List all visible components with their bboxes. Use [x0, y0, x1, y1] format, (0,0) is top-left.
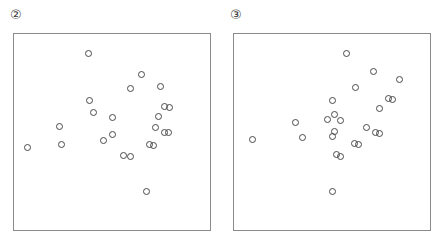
scatter-point	[157, 83, 164, 90]
plot-area-3	[234, 34, 430, 230]
scatter-point	[56, 123, 63, 130]
scatter-point	[329, 97, 336, 104]
scatter-point	[329, 133, 336, 140]
scatter-point	[152, 124, 159, 131]
scatter-point	[100, 137, 107, 144]
scatter-point	[376, 105, 383, 112]
panel-label-circled-three: ③	[230, 8, 242, 21]
scatter-point	[138, 71, 145, 78]
scatter-point	[249, 136, 256, 143]
scatter-point	[337, 153, 344, 160]
scatter-point	[24, 144, 31, 151]
figure-canvas: ② ③	[0, 0, 438, 248]
scatter-point	[376, 130, 383, 137]
scatter-panel-2: ②	[0, 0, 219, 248]
scatter-point	[109, 114, 116, 121]
scatter-point	[150, 142, 157, 149]
panel-label-circled-two: ②	[10, 8, 22, 21]
scatter-point	[165, 129, 172, 136]
scatter-point	[324, 116, 331, 123]
scatter-point	[127, 153, 134, 160]
scatter-point	[120, 152, 127, 159]
scatter-point	[329, 188, 336, 195]
scatter-point	[109, 131, 116, 138]
scatter-point	[90, 109, 97, 116]
scatter-point	[343, 50, 350, 57]
scatter-point	[337, 117, 344, 124]
scatter-point	[292, 119, 299, 126]
scatter-point	[85, 50, 92, 57]
scatter-point	[58, 141, 65, 148]
scatter-point	[355, 141, 362, 148]
scatter-point	[352, 84, 359, 91]
scatter-point	[331, 111, 338, 118]
scatter-point	[155, 113, 162, 120]
scatter-point	[166, 104, 173, 111]
scatter-panel-3: ③	[219, 0, 438, 248]
scatter-point	[86, 97, 93, 104]
scatter-point	[363, 124, 370, 131]
plot-frame-2	[13, 33, 211, 231]
plot-frame-3	[233, 33, 431, 231]
scatter-point	[389, 96, 396, 103]
plot-area-2	[14, 34, 210, 230]
scatter-point	[370, 68, 377, 75]
scatter-point	[143, 188, 150, 195]
scatter-point	[396, 76, 403, 83]
scatter-point	[127, 85, 134, 92]
scatter-point	[299, 134, 306, 141]
